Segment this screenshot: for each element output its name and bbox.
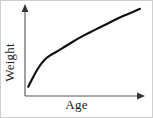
y-axis-arrow-icon xyxy=(22,4,29,12)
x-axis-label: Age xyxy=(0,98,153,111)
growth-curve-line xyxy=(28,9,140,87)
chart-figure: Weight Age xyxy=(0,0,153,118)
y-axis-label: Weight xyxy=(3,37,16,89)
